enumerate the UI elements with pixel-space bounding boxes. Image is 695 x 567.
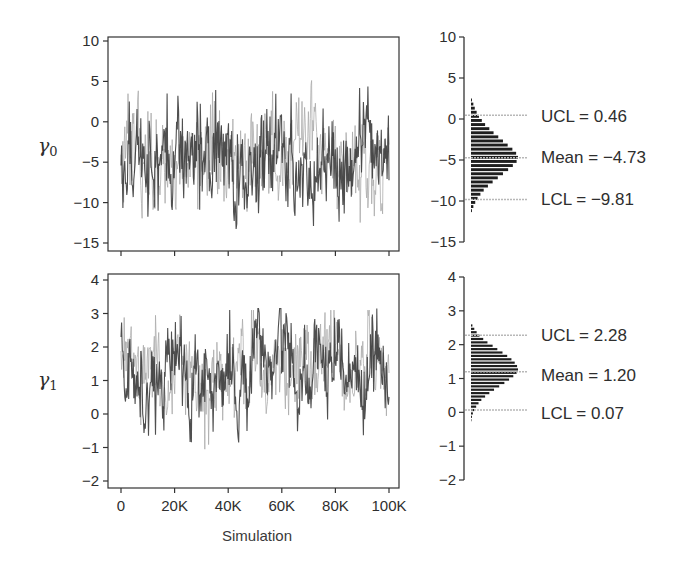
histogram-bars-gamma1: [471, 324, 518, 421]
histogram-bar: [471, 331, 477, 333]
histogram-bar: [471, 209, 472, 212]
histogram-bar: [471, 127, 489, 130]
ucl-label-gamma1: UCL = 2.28: [541, 326, 627, 345]
histogram-y-axis-gamma1: 43210−1−2: [439, 268, 464, 488]
y-tick-label: 1: [448, 370, 456, 387]
y-tick-label: −10: [431, 192, 456, 209]
histogram-bar: [471, 392, 489, 394]
histogram-bar: [471, 123, 485, 126]
y-tick-label: −5: [439, 151, 456, 168]
mean-label-gamma0: Mean = −4.73: [541, 148, 646, 167]
histogram-bar: [471, 148, 512, 151]
ucl-label-gamma0: UCL = 0.46: [541, 107, 627, 126]
x-tick-label: 40K: [215, 497, 242, 514]
trace-series-gamma0: [121, 81, 389, 230]
histogram-bar: [471, 168, 508, 171]
histogram-bar: [471, 416, 472, 418]
y-tick-label: −5: [82, 153, 99, 170]
histogram-bar: [471, 176, 498, 179]
histogram-bar: [471, 140, 503, 143]
y-tick-label: 4: [448, 268, 456, 285]
y-tick-label: 0: [448, 110, 456, 127]
histogram-bar: [471, 131, 494, 134]
histogram-bar: [471, 119, 482, 122]
histogram-bar: [471, 385, 499, 387]
histogram-bar: [471, 406, 476, 408]
mean-label-gamma1: Mean = 1.20: [541, 366, 636, 385]
y-tick-label: −10: [74, 194, 99, 211]
lcl-label-gamma1: LCL = 0.07: [541, 404, 624, 423]
mcmc-diagnostic-figure: 1050−5−10−15 γ0 1050−5−10−15 UCL = 0.46 …: [0, 0, 695, 567]
y-tick-label: −1: [82, 439, 99, 456]
trace-plot-gamma0: 1050−5−10−15 γ0: [38, 32, 399, 256]
histogram-bar: [471, 172, 503, 175]
lcl-label-gamma0: LCL = −9.81: [541, 190, 634, 209]
x-tick-label: 60K: [268, 497, 295, 514]
histogram-gamma0: 1050−5−10−15 UCL = 0.46 Mean = −4.73 LCL…: [431, 28, 646, 250]
y-tick-label: −2: [82, 472, 99, 489]
y-tick-label: 3: [91, 305, 99, 322]
histogram-bar: [471, 399, 481, 401]
histogram-bar: [471, 185, 488, 188]
x-tick-label: 0: [117, 497, 125, 514]
histogram-bar: [471, 328, 474, 330]
y-tick-label: −15: [431, 233, 456, 250]
x-tick-label: 20K: [161, 497, 188, 514]
y-tick-label: 5: [448, 69, 456, 86]
histogram-bar: [471, 375, 513, 377]
x-tick-label: 80K: [322, 497, 349, 514]
histogram-bar: [471, 382, 504, 384]
histogram-bar: [471, 201, 475, 204]
histogram-bar: [471, 324, 472, 326]
histogram-bar: [471, 107, 475, 110]
histogram-bar: [471, 103, 473, 106]
histogram-bar: [471, 193, 480, 196]
histogram-bar: [471, 412, 473, 414]
histogram-bar: [471, 348, 497, 350]
histogram-bar: [471, 111, 477, 114]
histogram-y-axis-gamma0: 1050−5−10−15: [431, 28, 464, 250]
y-tick-label: 3: [448, 302, 456, 319]
histogram-bar: [471, 152, 516, 155]
histogram-bar: [471, 389, 494, 391]
y-tick-label: 10: [439, 28, 456, 45]
y-tick-label: 1: [91, 372, 99, 389]
histogram-bar: [471, 341, 487, 343]
y-tick-label: −15: [74, 234, 99, 251]
y-axis-gamma0: 1050−5−10−15: [74, 32, 108, 251]
histogram-bar: [471, 362, 515, 364]
histogram-bar: [471, 338, 483, 340]
x-axis-ticks-top: [121, 251, 389, 256]
y-axis-gamma1: 43210−1−2: [82, 271, 108, 489]
histogram-bar: [471, 402, 479, 404]
trace-line-chain-1: [121, 309, 389, 443]
histogram-bar: [471, 205, 473, 208]
histogram-bar: [471, 355, 507, 357]
y-axis-label-gamma1: γ1: [38, 368, 58, 393]
y-tick-label: 0: [91, 113, 99, 130]
histogram-bar: [471, 379, 509, 381]
histogram-bar: [471, 99, 472, 102]
histogram-bar: [471, 164, 513, 167]
histogram-bar: [471, 144, 508, 147]
histogram-bar: [471, 345, 493, 347]
y-tick-label: 5: [91, 72, 99, 89]
histogram-bar: [471, 181, 493, 184]
histogram-bar: [471, 368, 518, 370]
histogram-bar: [471, 351, 502, 353]
y-tick-label: 0: [91, 405, 99, 422]
y-tick-label: 2: [91, 338, 99, 355]
trace-plot-gamma1: 43210−1−2 020K40K60K80K100K γ1 Simulatio…: [38, 271, 407, 544]
x-tick-label: 100K: [371, 497, 406, 514]
histogram-bar: [471, 160, 517, 163]
x-axis-gamma1: 020K40K60K80K100K: [117, 488, 407, 514]
y-tick-label: 4: [91, 271, 99, 288]
x-axis-title: Simulation: [222, 527, 292, 544]
y-tick-label: −1: [439, 437, 456, 454]
histogram-bar: [471, 395, 485, 397]
histogram-bar: [471, 189, 484, 192]
y-tick-label: 0: [448, 403, 456, 420]
y-tick-label: 10: [82, 32, 99, 49]
y-axis-label-gamma0: γ0: [38, 134, 58, 159]
y-tick-label: −2: [439, 471, 456, 488]
